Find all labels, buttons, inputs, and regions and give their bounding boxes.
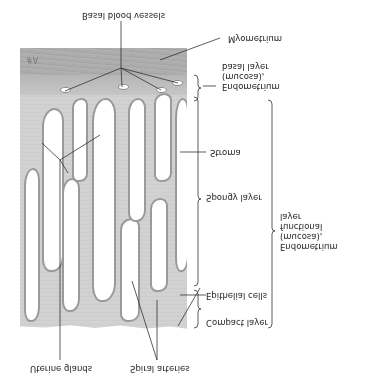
- endometrium-diagram: #A: [0, 0, 366, 388]
- label-myometrium: Myometrium: [228, 34, 282, 44]
- leader-lines: [0, 0, 366, 388]
- label-epithelial-cells: Epithelial cells: [206, 291, 267, 301]
- label-endometrium-basal-layer: Endometrium (mucosa), basal layer: [222, 62, 280, 92]
- label-basal-blood-vessels: Basal blood vessels: [82, 11, 165, 21]
- label-spongy-layer: Spongy layer: [206, 193, 262, 203]
- label-stroma: Stroma: [210, 148, 241, 158]
- label-uterine-glands: Uterine glands: [30, 364, 92, 374]
- label-spiral-arteries: Spiral arteries: [130, 364, 190, 374]
- label-endometrium-functional-layer: Endometrium (mucosa), functional layer: [280, 212, 338, 252]
- label-compact-layer: Compact layer: [206, 318, 268, 328]
